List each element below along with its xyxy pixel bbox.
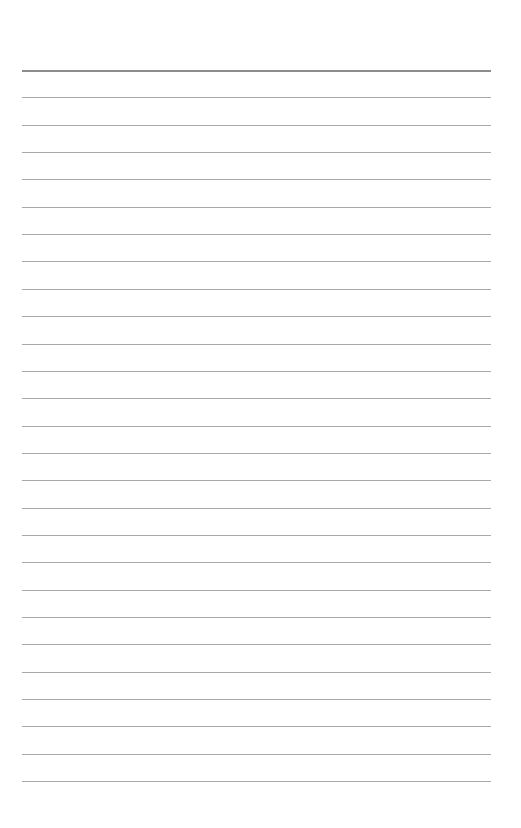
rule-line <box>22 726 491 727</box>
rule-line <box>22 426 491 427</box>
rule-line <box>22 289 491 290</box>
rule-line <box>22 699 491 700</box>
rule-line <box>22 344 491 345</box>
rule-line <box>22 261 491 262</box>
rule-line <box>22 234 491 235</box>
rule-line <box>22 152 491 153</box>
rule-line <box>22 179 491 180</box>
rule-line <box>22 535 491 536</box>
lined-paper-page <box>0 0 521 828</box>
rule-line <box>22 590 491 591</box>
rule-line <box>22 453 491 454</box>
rule-line <box>22 617 491 618</box>
rule-line <box>22 316 491 317</box>
rule-line <box>22 781 491 782</box>
rule-line <box>22 754 491 755</box>
rule-line <box>22 398 491 399</box>
rule-line <box>22 207 491 208</box>
rule-line <box>22 125 491 126</box>
rule-line <box>22 672 491 673</box>
rule-line <box>22 644 491 645</box>
rule-line <box>22 562 491 563</box>
rule-line <box>22 371 491 372</box>
top-rule-line <box>22 70 491 72</box>
rule-line <box>22 508 491 509</box>
rule-line <box>22 97 491 98</box>
rule-line <box>22 480 491 481</box>
